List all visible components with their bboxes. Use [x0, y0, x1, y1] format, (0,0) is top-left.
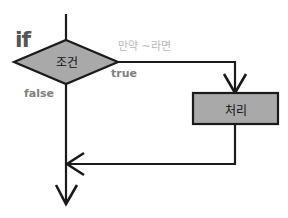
if-keyword: if — [15, 27, 30, 52]
return-path-line — [67, 124, 235, 164]
false-branch-label: false — [24, 87, 54, 100]
process-label: 처리 — [193, 101, 279, 118]
true-branch-label: true — [111, 67, 137, 80]
condition-label: 조건 — [50, 53, 84, 70]
annotation-label: 만약 ~라면 — [118, 37, 171, 53]
